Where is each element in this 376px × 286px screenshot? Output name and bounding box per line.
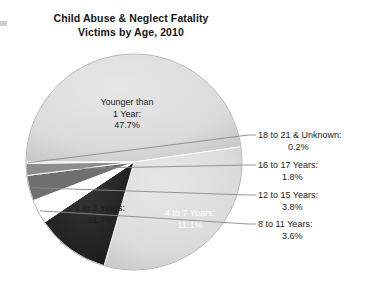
slice-label-line-1: 18 to 21 & Unknown: — [258, 130, 342, 140]
slice-label-1-to-3-years: 1 to 3 Years: 31.7% — [43, 203, 157, 226]
slice-label-line-1: 4 to 7 Years: — [165, 208, 215, 218]
pie-slices-group — [26, 54, 242, 270]
slice-label-line-1: 1 to 3 Years: — [75, 203, 125, 213]
slice-value-18-to-21-and-unknown: 0.2% — [258, 142, 342, 154]
slice-value-younger-than-1-year: 47.7% — [66, 120, 188, 132]
slice-label-4-to-7-years: 4 to 7 Years: 11.1% — [144, 208, 236, 231]
slice-value-8-to-11-years: 3.6% — [258, 231, 312, 243]
slice-label-12-to-15-years: 12 to 15 Years: 3.8% — [258, 190, 318, 213]
slice-value-16-to-17-years: 1.8% — [258, 172, 318, 184]
slice-label-16-to-17-years: 16 to 17 Years: 1.8% — [258, 160, 318, 183]
slice-value-12-to-15-years: 3.8% — [258, 202, 318, 214]
slice-value-1-to-3-years: 31.7% — [43, 215, 157, 227]
slice-label-line-1: 8 to 11 Years: — [258, 219, 312, 229]
slice-label-8-to-11-years: 8 to 11 Years: 3.6% — [258, 219, 312, 242]
slice-label-line-1: 16 to 17 Years: — [258, 160, 318, 170]
slice-label-younger-than-1-year: Younger than 1 Year: 47.7% — [66, 97, 188, 132]
slice-label-line-1: Younger than — [100, 97, 153, 107]
slice-value-4-to-7-years: 11.1% — [144, 220, 236, 232]
slice-label-line-2: 1 Year: — [113, 109, 141, 119]
slice-label-line-1: 12 to 15 Years: — [258, 190, 318, 200]
slice-label-18-to-21-and-unknown: 18 to 21 & Unknown: 0.2% — [258, 130, 342, 153]
pie-chart-figure: Child Abuse & Neglect Fatality Victims b… — [0, 0, 376, 286]
